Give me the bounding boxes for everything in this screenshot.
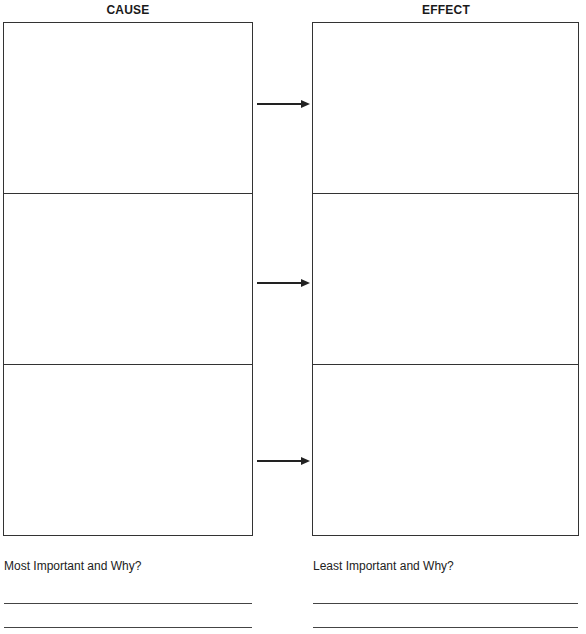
most-important-prompt: Most Important and Why? (4, 559, 141, 573)
effect-box-3[interactable] (313, 364, 578, 534)
arrow-shaft (257, 282, 302, 284)
cause-column (3, 22, 253, 536)
least-important-prompt: Least Important and Why? (313, 559, 454, 573)
effect-box-2[interactable] (313, 193, 578, 364)
cause-box-1[interactable] (4, 23, 252, 193)
effect-column (312, 22, 579, 536)
effect-column-title: EFFECT (313, 3, 579, 17)
right-arrow-icon (257, 456, 310, 466)
effect-box-1[interactable] (313, 23, 578, 193)
arrow-shaft (257, 460, 302, 462)
arrow-head (301, 100, 310, 108)
right-arrow-icon (257, 278, 310, 288)
least-important-answer-line-2[interactable] (313, 627, 578, 628)
arrow-head (301, 457, 310, 465)
most-important-answer-line-1[interactable] (4, 603, 252, 604)
least-important-answer-line-1[interactable] (313, 603, 578, 604)
cause-box-2[interactable] (4, 193, 252, 364)
arrow-head (301, 279, 310, 287)
most-important-answer-line-2[interactable] (4, 627, 252, 628)
cause-column-title: CAUSE (3, 3, 253, 17)
right-arrow-icon (257, 99, 310, 109)
arrow-shaft (257, 103, 302, 105)
cause-box-3[interactable] (4, 364, 252, 534)
